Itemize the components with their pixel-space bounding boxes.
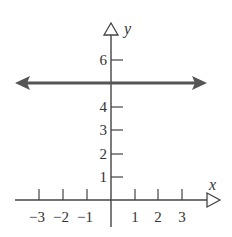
x-tick-label: 2 [154,209,162,225]
x-tick-label: 3 [178,209,186,225]
x-tick-label: −1 [77,209,93,225]
y-tick-label: 6 [100,52,108,68]
x-axis-label: x [208,176,216,193]
y-tick-label: 1 [100,169,108,185]
x-tick-label: −3 [29,209,45,225]
y-tick-label: 4 [100,99,108,115]
y-axis-label: y [122,20,132,38]
x-tick-label: 1 [131,209,139,225]
x-tick-label: −2 [53,209,69,225]
graph-canvas: x y −3 −2 −1 1 2 3 1 2 3 4 6 [0,0,232,237]
x-tick-labels: −3 −2 −1 1 2 3 [29,209,186,225]
y-tick-label: 3 [100,122,108,138]
y-axis-arrow-icon [104,23,118,35]
y-ticks [111,60,123,177]
y-tick-labels: 1 2 3 4 6 [100,52,108,185]
x-axis-arrow-icon [207,193,220,207]
y-tick-label: 2 [100,146,108,162]
